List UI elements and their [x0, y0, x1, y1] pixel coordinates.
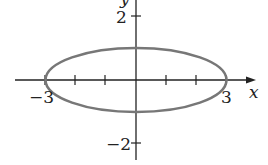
x-tick-label-3: 3 [221, 87, 232, 107]
y-tick-label-2: 2 [116, 7, 127, 27]
x-tick-label-neg3: −3 [29, 87, 54, 107]
y-tick-label-neg2: −2 [106, 134, 131, 154]
ellipse-diagram: y 2 −2 −3 3 x [0, 0, 268, 165]
x-axis-label: x [249, 82, 259, 102]
